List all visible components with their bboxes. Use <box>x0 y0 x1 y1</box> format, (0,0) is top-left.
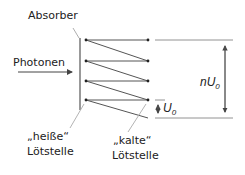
absorber-label: Absorber <box>28 9 78 22</box>
cold-junction-label-2: Lötstelle <box>112 149 159 162</box>
hot-junction-label-1: „heiße“ <box>27 130 69 143</box>
photons-label: Photonen <box>13 56 65 69</box>
nu0-label: nU0 <box>200 76 220 93</box>
junction-dots <box>85 39 150 102</box>
u0-label: U0 <box>163 102 176 119</box>
thermocouple-chain <box>86 40 148 118</box>
cold-junction-leader <box>128 104 146 132</box>
absorber-leader <box>73 28 79 38</box>
cold-junction-label-1: „kalte“ <box>113 134 151 147</box>
hot-junction-leader <box>70 104 84 128</box>
hot-junction-label-2: Lötstelle <box>27 145 74 158</box>
